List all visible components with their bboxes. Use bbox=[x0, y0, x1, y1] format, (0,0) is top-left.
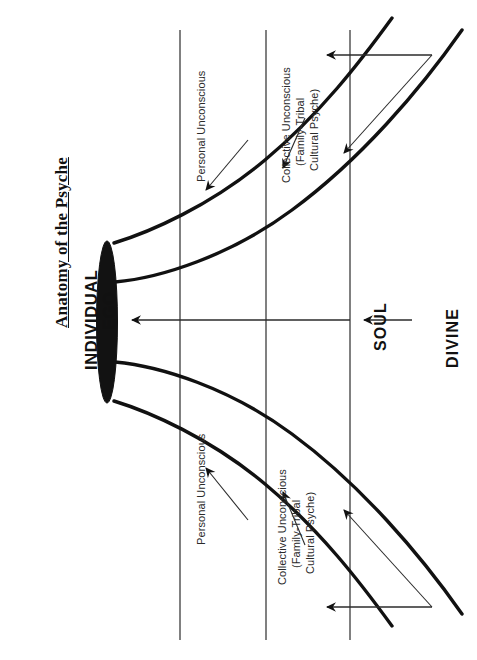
collective-unconscious-label-bottom-line1: Collective Unconscious bbox=[276, 469, 288, 585]
page-title: Anatomy of the Psyche bbox=[52, 157, 72, 328]
soul-label: SOUL bbox=[372, 302, 390, 351]
collective-unconscious-label-top-line3: Cultural Psyche) bbox=[308, 89, 320, 171]
personal-unconscious-label-bottom: Personal Unconscious bbox=[195, 434, 207, 545]
collective-unconscious-label-top-line1: Collective Unconscious bbox=[280, 67, 292, 183]
collective-unconscious-label-bottom-line2: (Family-Tribal bbox=[290, 500, 302, 568]
funnel-curve-outer-bottom bbox=[115, 362, 462, 614]
collective-unconscious-label-bottom-line3: Cultural Psyche) bbox=[304, 492, 316, 574]
personal-unconscious-label-top: Personal Unconscious bbox=[195, 71, 207, 182]
diagram-canvas bbox=[0, 0, 477, 660]
individual-ego-label-line2: EGO bbox=[100, 292, 119, 330]
individual-ego-label-line1: INDIVIDUAL bbox=[82, 270, 101, 370]
leader-personal-unconscious-bottom bbox=[206, 468, 248, 520]
collective-unconscious-label-top-line2: (Family-Tribal bbox=[294, 98, 306, 166]
divine-label: DIVINE bbox=[444, 308, 462, 368]
anatomy-of-the-psyche-figure: Anatomy of the Psyche INDIVIDUAL EGO SOU… bbox=[0, 0, 477, 660]
leader-outer-inward-top bbox=[344, 55, 432, 153]
leader-personal-unconscious-top bbox=[206, 140, 248, 190]
